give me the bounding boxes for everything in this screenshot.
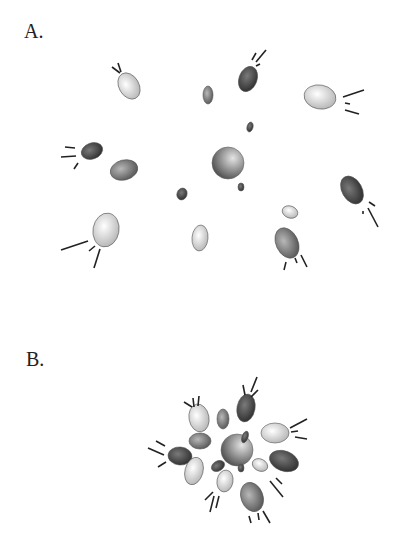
particle-mid <box>217 409 229 429</box>
particle-diagram <box>0 0 398 550</box>
motion-line <box>345 103 350 104</box>
motion-line <box>184 402 192 407</box>
motion-line <box>295 258 297 263</box>
particle-dark <box>238 183 244 191</box>
panel-a-dispersed <box>61 50 378 270</box>
motion-line <box>210 496 214 512</box>
particle-mid <box>237 479 268 515</box>
motion-line <box>368 208 378 227</box>
particle-mid <box>189 433 211 449</box>
particle-mid <box>108 157 140 184</box>
motion-line <box>258 513 259 520</box>
particle-light <box>250 456 270 474</box>
motion-line <box>343 90 364 97</box>
particle-dark <box>238 464 244 472</box>
panel-b-clustered <box>148 377 307 523</box>
motion-line <box>263 511 270 523</box>
motion-line <box>65 147 75 148</box>
particle-dark <box>175 187 189 202</box>
particle-mid <box>270 224 303 262</box>
motion-line <box>243 385 245 395</box>
motion-line <box>252 53 256 60</box>
motion-line <box>249 516 251 523</box>
motion-line <box>369 202 375 206</box>
particle-dark <box>235 64 261 95</box>
particle-light <box>302 82 338 111</box>
particle-dark <box>336 172 368 208</box>
motion-line <box>193 398 194 407</box>
motion-line <box>148 448 164 455</box>
motion-line <box>256 64 260 66</box>
particle-dark <box>246 121 254 132</box>
motion-line <box>156 441 165 446</box>
particle-light <box>187 402 212 433</box>
motion-line <box>74 163 78 169</box>
motion-line <box>256 50 266 62</box>
motion-line <box>251 377 257 392</box>
motion-line <box>216 496 219 508</box>
motion-line <box>198 396 199 406</box>
motion-line <box>345 110 359 114</box>
particle-mid <box>203 86 213 104</box>
particle-dark <box>79 140 105 163</box>
motion-line <box>205 492 213 500</box>
motion-line <box>284 262 286 270</box>
motion-line <box>295 437 307 439</box>
particle-light <box>280 204 299 221</box>
motion-line <box>276 478 282 484</box>
particle-light <box>215 469 235 493</box>
particle-dark <box>235 393 258 424</box>
particle-light <box>113 69 144 103</box>
particle-dark <box>266 446 301 475</box>
motion-line <box>61 156 76 157</box>
motion-line <box>301 255 307 267</box>
motion-line <box>158 462 166 467</box>
particle-light <box>191 224 209 251</box>
motion-line <box>291 431 298 432</box>
motion-line <box>118 63 121 72</box>
motion-line <box>89 246 95 251</box>
motion-line <box>61 241 88 250</box>
central-sphere <box>221 434 253 466</box>
motion-line <box>290 419 307 428</box>
central-sphere <box>212 147 244 179</box>
particle-light <box>90 211 122 249</box>
particle-light <box>261 423 289 443</box>
motion-line <box>94 249 100 268</box>
